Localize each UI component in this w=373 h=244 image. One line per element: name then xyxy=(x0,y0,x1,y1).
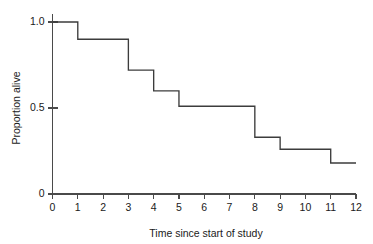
y-tick-label: 0.5 xyxy=(30,101,45,113)
x-tick-label: 7 xyxy=(227,201,233,213)
survival-curve-chart: 00.51.0 0123456789101112 Time since star… xyxy=(0,0,373,244)
x-tick-label: 11 xyxy=(325,201,336,213)
x-tick-label: 1 xyxy=(75,201,81,213)
x-tick-label: 4 xyxy=(151,201,157,213)
x-tick-label: 8 xyxy=(252,201,258,213)
survival-step-curve xyxy=(53,22,357,163)
x-tick-label: 3 xyxy=(125,201,131,213)
y-tick-labels: 00.51.0 xyxy=(30,15,45,199)
x-tick-label: 12 xyxy=(350,201,362,213)
chart-canvas: 00.51.0 0123456789101112 Time since star… xyxy=(0,0,373,244)
x-tick-label: 2 xyxy=(100,201,106,213)
y-tick-label: 1.0 xyxy=(30,15,45,27)
x-axis-title: Time since start of study xyxy=(149,227,263,239)
x-tick-label: 6 xyxy=(201,201,207,213)
y-tick-label: 0 xyxy=(39,187,45,199)
x-tick-label: 10 xyxy=(300,201,312,213)
y-axis-title: Proportion alive xyxy=(10,71,22,144)
x-tick-labels: 0123456789101112 xyxy=(50,201,362,213)
x-tick-label: 9 xyxy=(277,201,283,213)
x-tick-label: 0 xyxy=(50,201,56,213)
x-tick-label: 5 xyxy=(176,201,182,213)
